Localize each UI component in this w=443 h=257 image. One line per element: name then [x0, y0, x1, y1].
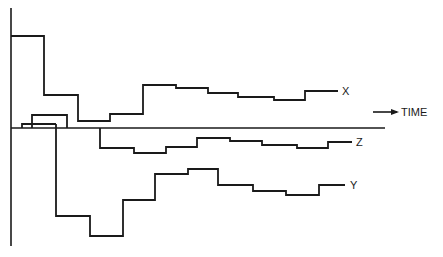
step-response-diagram: [0, 0, 443, 257]
series-z-trace: [100, 128, 352, 153]
series-x-trace: [11, 36, 338, 121]
pulse-tall: [32, 115, 67, 128]
series-z-label: Z: [356, 137, 363, 148]
series-y-label: Y: [350, 180, 357, 191]
time-arrow-icon: [373, 109, 399, 115]
time-axis-label: TIME: [401, 107, 427, 118]
series-x-label: X: [342, 86, 349, 97]
